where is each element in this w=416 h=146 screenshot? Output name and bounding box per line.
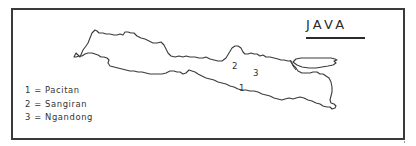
madura-coastline bbox=[293, 58, 337, 68]
java-coastline bbox=[74, 30, 336, 109]
site-marker-sangiran: 2 bbox=[232, 61, 237, 71]
title-underline bbox=[306, 37, 365, 39]
map-title: JAVA bbox=[306, 17, 347, 32]
site-marker-ngandong: 3 bbox=[253, 68, 258, 78]
legend-item-ngandong: 3 = Ngandong bbox=[25, 111, 93, 125]
site-marker-pacitan: 1 bbox=[239, 83, 244, 93]
legend-item-sangiran: 2 = Sangiran bbox=[25, 98, 93, 112]
legend-item-pacitan: 1 = Pacitan bbox=[25, 84, 93, 98]
print-speck bbox=[404, 141, 405, 143]
map-legend: 1 = Pacitan 2 = Sangiran 3 = Ngandong bbox=[25, 84, 93, 125]
